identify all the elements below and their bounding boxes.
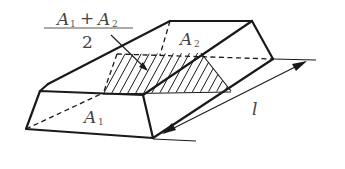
edge-top-right-down: [252, 21, 273, 59]
label-a2-subscript: 2: [194, 39, 200, 49]
hatch-line: [140, 45, 170, 100]
fraction-plus: +: [80, 8, 94, 28]
hatch-line: [116, 45, 146, 100]
hatch-line: [252, 45, 282, 100]
leader-line: [111, 35, 146, 69]
fraction-a2-letter: A: [96, 9, 110, 29]
hatch-line: [108, 45, 138, 100]
dimension-line-length: [164, 62, 305, 133]
arrowhead-back-icon: [292, 61, 307, 71]
edge-front-top-left: [40, 84, 48, 91]
hatch-line: [148, 45, 178, 100]
fraction-denominator: 2: [82, 32, 93, 52]
mid-section-right-edge: [201, 53, 231, 91]
hatch-line: [156, 45, 186, 100]
label-a1-letter: A: [82, 107, 96, 127]
label-a1-subscript: 1: [98, 117, 104, 127]
label-length: l: [252, 99, 257, 119]
hatch-line: [276, 45, 306, 100]
extension-line-back: [273, 59, 316, 60]
hatch-line: [100, 45, 130, 100]
hatch-line: [260, 45, 290, 100]
hatch-line: [164, 45, 194, 100]
extension-line-front: [153, 139, 196, 141]
fraction-a1-letter: A: [55, 9, 69, 29]
label-a2-letter: A: [178, 29, 192, 49]
prismoid-diagram: A 1 + A 2 2 A 2 A 1 l: [0, 0, 345, 169]
edge-top-left-long: [48, 21, 170, 84]
